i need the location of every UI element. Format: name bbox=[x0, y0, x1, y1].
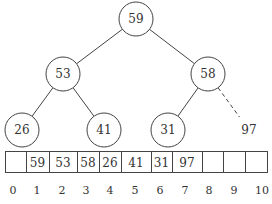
node-value: 26 bbox=[14, 123, 29, 137]
array-index: 2 bbox=[59, 184, 66, 197]
array-index: 8 bbox=[206, 184, 213, 197]
array-index: 10 bbox=[255, 184, 269, 197]
array-cell bbox=[246, 152, 268, 173]
cell-box bbox=[6, 152, 27, 173]
cell-value: 97 bbox=[179, 156, 194, 170]
cell-value: 58 bbox=[80, 156, 95, 170]
array-index: 0 bbox=[10, 184, 17, 197]
tree-node: 53 bbox=[46, 57, 80, 91]
edge-n2-n5 bbox=[73, 88, 94, 117]
array-cell: 58 bbox=[78, 152, 100, 173]
cell-value: 26 bbox=[102, 156, 117, 170]
array-index: 1 bbox=[34, 184, 41, 197]
array-index: 5 bbox=[132, 184, 139, 197]
array-cell: 97 bbox=[173, 152, 203, 173]
array-cell: 59 bbox=[27, 152, 50, 173]
array-index: 9 bbox=[231, 184, 238, 197]
pending-value: 97 bbox=[241, 123, 256, 137]
tree-node: 41 bbox=[87, 113, 121, 147]
cell-box bbox=[224, 152, 246, 173]
array-index: 6 bbox=[157, 184, 164, 197]
node-value: 59 bbox=[128, 12, 143, 26]
array-cell: 53 bbox=[50, 152, 78, 173]
tree-node: 26 bbox=[5, 113, 39, 147]
array-cell: 31 bbox=[152, 152, 173, 173]
cell-box bbox=[246, 152, 268, 173]
array-index: 4 bbox=[107, 184, 114, 197]
array-cell: 41 bbox=[122, 152, 152, 173]
edge-n3-n7 bbox=[218, 88, 240, 117]
edge-n1-n3 bbox=[150, 29, 195, 63]
cell-value: 41 bbox=[128, 156, 143, 170]
array-cell bbox=[224, 152, 246, 173]
tree-node: 31 bbox=[151, 113, 185, 147]
cell-value: 53 bbox=[55, 156, 70, 170]
edge-n3-n6 bbox=[178, 88, 198, 116]
node-value: 31 bbox=[160, 123, 175, 137]
array-cell: 26 bbox=[100, 152, 122, 173]
array-index: 7 bbox=[182, 184, 189, 197]
edge-n1-n2 bbox=[77, 29, 123, 64]
node-value: 58 bbox=[200, 67, 215, 81]
array-indices: 012345678910 bbox=[10, 184, 270, 197]
node-value: 53 bbox=[55, 67, 70, 81]
cell-value: 31 bbox=[154, 156, 169, 170]
array-index: 3 bbox=[83, 184, 90, 197]
node-value: 41 bbox=[96, 123, 111, 137]
cell-value: 59 bbox=[30, 156, 45, 170]
cell-box bbox=[203, 152, 224, 173]
array-cell bbox=[6, 152, 27, 173]
heap-array: 59535826413197 bbox=[6, 152, 268, 173]
tree-node: 59 bbox=[119, 2, 153, 36]
edge-n2-n4 bbox=[32, 88, 53, 117]
tree-node: 58 bbox=[191, 57, 225, 91]
tree-nodes: 59535826413197 bbox=[5, 2, 257, 147]
heap-diagram: 59535826413197 59535826413197 0123456789… bbox=[0, 0, 272, 204]
array-cell bbox=[203, 152, 224, 173]
